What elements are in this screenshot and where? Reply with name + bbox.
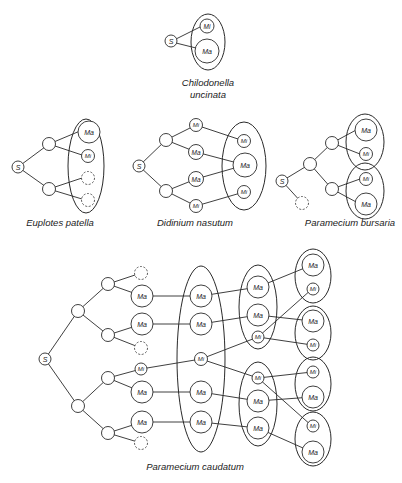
degenerate-node (135, 267, 148, 280)
degenerate-node (82, 194, 95, 207)
division-node (160, 134, 173, 147)
bursaria-diagram: S Ma Mi Mi Ma Paramecium bursaria (276, 114, 395, 228)
ma-label: Ma (253, 284, 263, 291)
ma-label: Ma (253, 425, 263, 432)
division-node (326, 183, 339, 196)
division-node (102, 372, 115, 385)
ma-label: Ma (137, 321, 147, 328)
division-node (43, 138, 56, 151)
start-label: S (169, 38, 174, 45)
mi-label: Mi (363, 176, 370, 182)
species-caption: Paramecium caudatum (146, 461, 244, 472)
ma-label: Ma (308, 394, 318, 401)
mi-label: Mi (85, 153, 92, 159)
mi-label: Mi (255, 375, 262, 381)
mi-label: Mi (138, 366, 145, 372)
mi-label: Mi (255, 334, 262, 340)
species-caption: Chilodonella (182, 77, 234, 88)
ma-label: Ma (202, 48, 212, 55)
mi-label: Mi (310, 423, 317, 429)
division-node (43, 183, 56, 196)
nuclear-lineage-diagram: S Mi Ma Chilodonella uncinata S Ma Mi Eu… (0, 0, 402, 483)
chilodonella-diagram: S Mi Ma Chilodonella uncinata (165, 14, 234, 100)
species-caption: Euplotes patella (26, 217, 94, 228)
ma-label: Ma (253, 312, 263, 319)
division-node (102, 329, 115, 342)
mi-label: Mi (198, 356, 205, 362)
start-label: S (280, 178, 285, 185)
degenerate-node (135, 342, 148, 355)
ma-label: Ma (191, 176, 200, 183)
degenerate-node (135, 437, 148, 450)
division-node (304, 158, 317, 171)
euplotes-diagram: S Ma Mi Euplotes patella (12, 119, 104, 228)
ma-label: Ma (196, 293, 206, 300)
ma-label: Ma (137, 389, 147, 396)
ma-label: Ma (308, 262, 318, 269)
mi-label: Mi (363, 151, 370, 157)
ma-label: Ma (361, 127, 371, 134)
mi-label: Mi (310, 369, 317, 375)
mi-label: Mi (241, 189, 248, 195)
mi-label: Mi (310, 286, 317, 292)
ma-label: Ma (137, 293, 147, 300)
ma-label: Ma (196, 419, 206, 426)
species-caption: Paramecium bursaria (305, 217, 395, 228)
mi-label: Mi (241, 138, 248, 144)
ma-label: Ma (240, 162, 250, 169)
mi-label: Mi (193, 203, 200, 209)
ma-label: Ma (308, 318, 318, 325)
start-label: S (43, 356, 48, 363)
ma-label: Ma (191, 149, 200, 156)
ma-label: Ma (308, 449, 318, 456)
mi-label: Mi (204, 23, 211, 30)
start-label: S (137, 163, 142, 170)
species-caption: Didinium nasutum (157, 217, 233, 228)
division-node (72, 305, 85, 318)
division-node (326, 137, 339, 150)
division-node (160, 185, 173, 198)
division-node (72, 400, 85, 413)
ma-label: Ma (84, 129, 94, 136)
degenerate-node (296, 197, 309, 210)
ma-label: Ma (253, 398, 263, 405)
ma-label: Ma (196, 389, 206, 396)
start-label: S (16, 164, 21, 171)
degenerate-node (82, 172, 95, 185)
division-node (102, 278, 115, 291)
ma-label: Ma (361, 201, 371, 208)
ma-label: Ma (137, 419, 147, 426)
ma-label: Ma (196, 321, 206, 328)
caudatum-diagram: S Ma Ma Mi Ma Ma Ma Ma Mi Ma Ma Ma (39, 249, 331, 472)
division-node (102, 427, 115, 440)
didinium-diagram: S Mi Ma Ma Mi Mi Ma Mi Didinium nasutum (133, 119, 266, 229)
species-caption: uncinata (190, 89, 226, 100)
mi-label: Mi (193, 122, 200, 128)
mi-label: Mi (310, 342, 317, 348)
